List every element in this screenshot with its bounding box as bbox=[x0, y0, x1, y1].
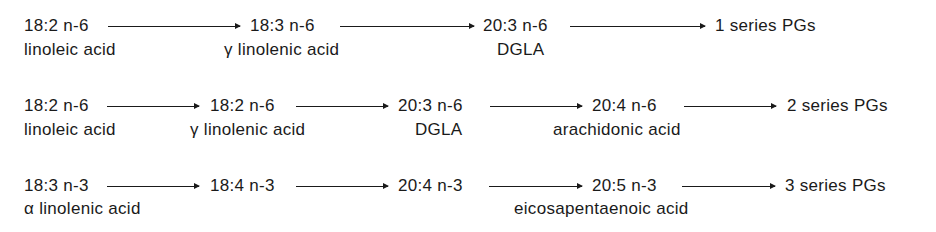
arrow-icon bbox=[296, 106, 388, 107]
arrow-icon bbox=[340, 26, 474, 27]
node-name: α linolenic acid bbox=[24, 199, 141, 219]
arrow-icon bbox=[684, 106, 776, 107]
arrow-icon bbox=[107, 186, 199, 187]
node-formula: 20:3 n-6 bbox=[398, 96, 463, 116]
node-formula: 20:5 n-3 bbox=[592, 176, 657, 196]
node-name: DGLA bbox=[415, 120, 463, 140]
node-name: DGLA bbox=[497, 40, 545, 60]
node-name: γ linolenic acid bbox=[190, 120, 305, 140]
node-name: linoleic acid bbox=[24, 40, 116, 60]
node-name: γ linolenic acid bbox=[224, 40, 339, 60]
arrow-icon bbox=[489, 186, 582, 187]
arrow-icon bbox=[108, 26, 240, 27]
node-name: linoleic acid bbox=[24, 120, 116, 140]
arrow-icon bbox=[570, 26, 705, 27]
node-formula: 18:3 n-3 bbox=[24, 176, 89, 196]
arrow-icon bbox=[682, 186, 775, 187]
node-formula: 18:2 n-6 bbox=[210, 96, 275, 116]
node-formula: 1 series PGs bbox=[715, 16, 816, 36]
node-formula: 20:3 n-6 bbox=[483, 16, 548, 36]
node-name: arachidonic acid bbox=[553, 120, 681, 140]
node-formula: 20:4 n-3 bbox=[398, 176, 463, 196]
arrow-icon bbox=[107, 106, 199, 107]
node-formula: 18:3 n-6 bbox=[250, 16, 315, 36]
node-formula: 3 series PGs bbox=[785, 176, 886, 196]
node-formula: 20:4 n-6 bbox=[592, 96, 657, 116]
arrow-icon bbox=[296, 186, 388, 187]
node-name: eicosapentaenoic acid bbox=[514, 199, 689, 219]
node-formula: 18:2 n-6 bbox=[24, 96, 89, 116]
node-formula: 18:2 n-6 bbox=[24, 16, 89, 36]
node-formula: 18:4 n-3 bbox=[210, 176, 275, 196]
node-formula: 2 series PGs bbox=[787, 96, 888, 116]
arrow-icon bbox=[490, 106, 582, 107]
